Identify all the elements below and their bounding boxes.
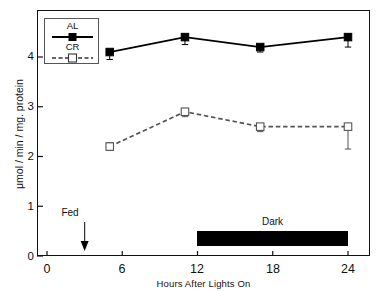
plot-data-layer [0, 0, 384, 291]
chart-figure: 0 1 2 3 4 μmol / min / mg. protein 0 6 1… [0, 0, 384, 291]
